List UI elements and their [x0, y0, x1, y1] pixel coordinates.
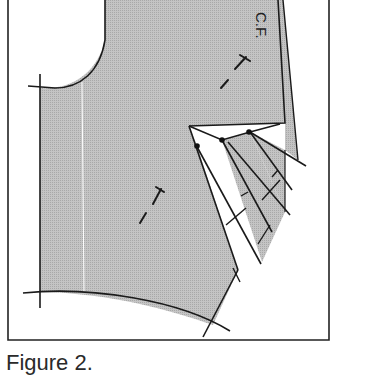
figure-caption: Figure 2.	[6, 350, 93, 376]
center-front-label: C.F.	[253, 12, 270, 39]
pattern-diagram: C.F.	[0, 0, 382, 345]
